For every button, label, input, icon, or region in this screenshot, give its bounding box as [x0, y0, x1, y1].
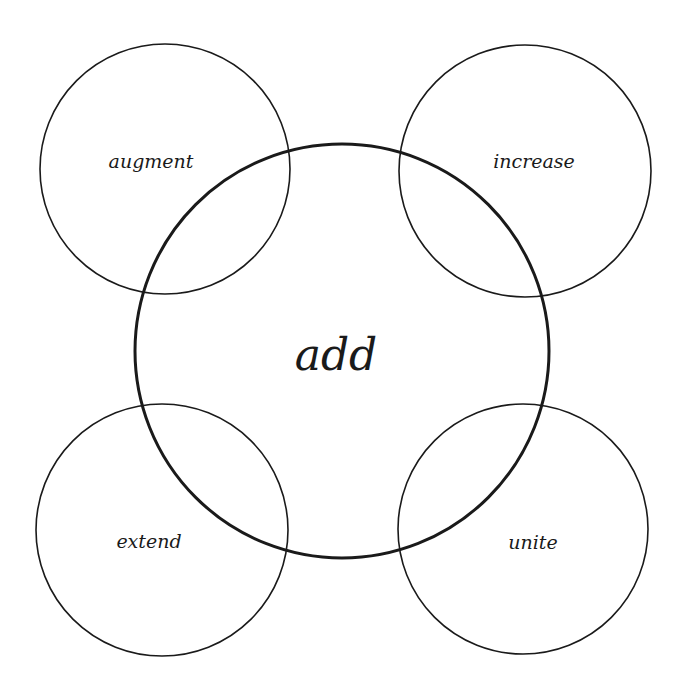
- add-synonyms-diagram: augment increase extend unite add: [0, 0, 685, 693]
- label-unite: unite: [508, 531, 557, 553]
- label-add: add: [295, 329, 378, 380]
- label-increase: increase: [493, 150, 575, 172]
- circle-unite: [398, 404, 648, 654]
- label-extend: extend: [116, 530, 181, 552]
- label-augment: augment: [109, 150, 194, 172]
